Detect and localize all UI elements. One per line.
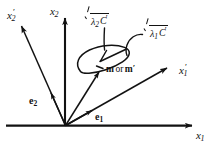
m-symbol: m bbox=[106, 64, 114, 74]
lambda1-constant-prime: ′ bbox=[165, 25, 167, 35]
x1-axis-label: x1 bbox=[196, 130, 204, 143]
x2-axis-label: x2 bbox=[50, 6, 58, 19]
ellipse-center-label: morm′ bbox=[106, 64, 135, 75]
radicand-lambda2: λ2C′ bbox=[90, 13, 109, 28]
e1-basis-label: e1 bbox=[95, 112, 103, 124]
e2-sub: 2 bbox=[33, 99, 37, 108]
figure-container: x2′ x2 x1′ x1 e2 e1 morm′ λ2C′ λ1C′ bbox=[0, 0, 212, 144]
x1-primed-axis-label: x1′ bbox=[179, 63, 187, 78]
e2-basis-vector bbox=[51, 93, 66, 126]
x2-primed-prime: ′ bbox=[13, 7, 15, 17]
sqrt-lambda1-label: λ1C′ bbox=[143, 24, 168, 40]
lambda1-sub: 1 bbox=[154, 31, 158, 40]
x2-sub: 2 bbox=[54, 10, 58, 19]
lambda2-sub: 2 bbox=[95, 19, 99, 28]
lambda2-leader-line bbox=[104, 28, 105, 50]
m-primed-mark: ′ bbox=[133, 63, 136, 73]
x1-primed-prime: ′ bbox=[185, 62, 187, 72]
x2-primed-axis-label: x2′ bbox=[7, 8, 15, 23]
radical-sign-lambda2: λ2C′ bbox=[84, 12, 109, 28]
e2-basis-label: e2 bbox=[29, 96, 37, 108]
lambda1-leader-line bbox=[126, 34, 142, 55]
x1-sub: 1 bbox=[200, 134, 204, 143]
lambda2-constant-prime: ′ bbox=[106, 13, 108, 23]
e1-sub: 1 bbox=[99, 115, 103, 124]
sqrt-lambda2-label: λ2C′ bbox=[84, 12, 109, 28]
m-connector: or bbox=[115, 64, 123, 74]
m-label-pointer bbox=[97, 66, 104, 69]
radicand-lambda1: λ1C′ bbox=[149, 25, 168, 40]
m-mean-vector bbox=[66, 72, 100, 126]
radical-sign-lambda1: λ1C′ bbox=[143, 24, 168, 40]
m-primed-symbol: m bbox=[125, 64, 133, 74]
